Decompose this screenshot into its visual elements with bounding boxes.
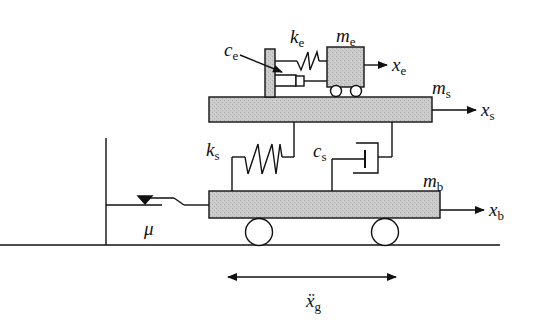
diagram-canvas	[0, 0, 543, 329]
label-structure-mass: ms	[432, 78, 451, 100]
label-equipment-damping: ce	[224, 40, 238, 62]
label-equipment-mass: me	[336, 26, 356, 48]
label-structure-displacement: xs	[481, 100, 495, 122]
label-base-displacement: xb	[489, 200, 504, 222]
label-equipment-displacement: xe	[392, 55, 406, 77]
base-wheel-left	[246, 219, 273, 246]
isolation-system-diagram: ke me ce xe ms xs ks cs mb xb μ ẍg	[0, 0, 543, 329]
base-wheel-right	[372, 219, 399, 246]
label-structure-damping: cs	[313, 141, 327, 163]
structure-mass-block	[209, 97, 432, 122]
friction-element	[106, 196, 209, 205]
base-mass-block	[209, 191, 440, 218]
label-friction: μ	[144, 219, 154, 238]
equipment-wheel-left	[331, 86, 342, 97]
equipment-damper	[275, 75, 327, 86]
equipment-spring	[275, 52, 327, 70]
equipment-wheel-right	[351, 86, 362, 97]
label-structure-stiffness: ks	[206, 140, 220, 162]
structure-spring	[232, 122, 294, 191]
equipment-mass-block	[327, 47, 364, 87]
label-base-mass: mb	[423, 171, 443, 193]
label-equipment-stiffness: ke	[290, 27, 304, 49]
equipment-damping-pointer	[240, 55, 282, 72]
structure-damper	[332, 122, 392, 191]
equipment-post	[265, 49, 275, 97]
label-ground-acceleration: ẍg	[306, 291, 321, 313]
